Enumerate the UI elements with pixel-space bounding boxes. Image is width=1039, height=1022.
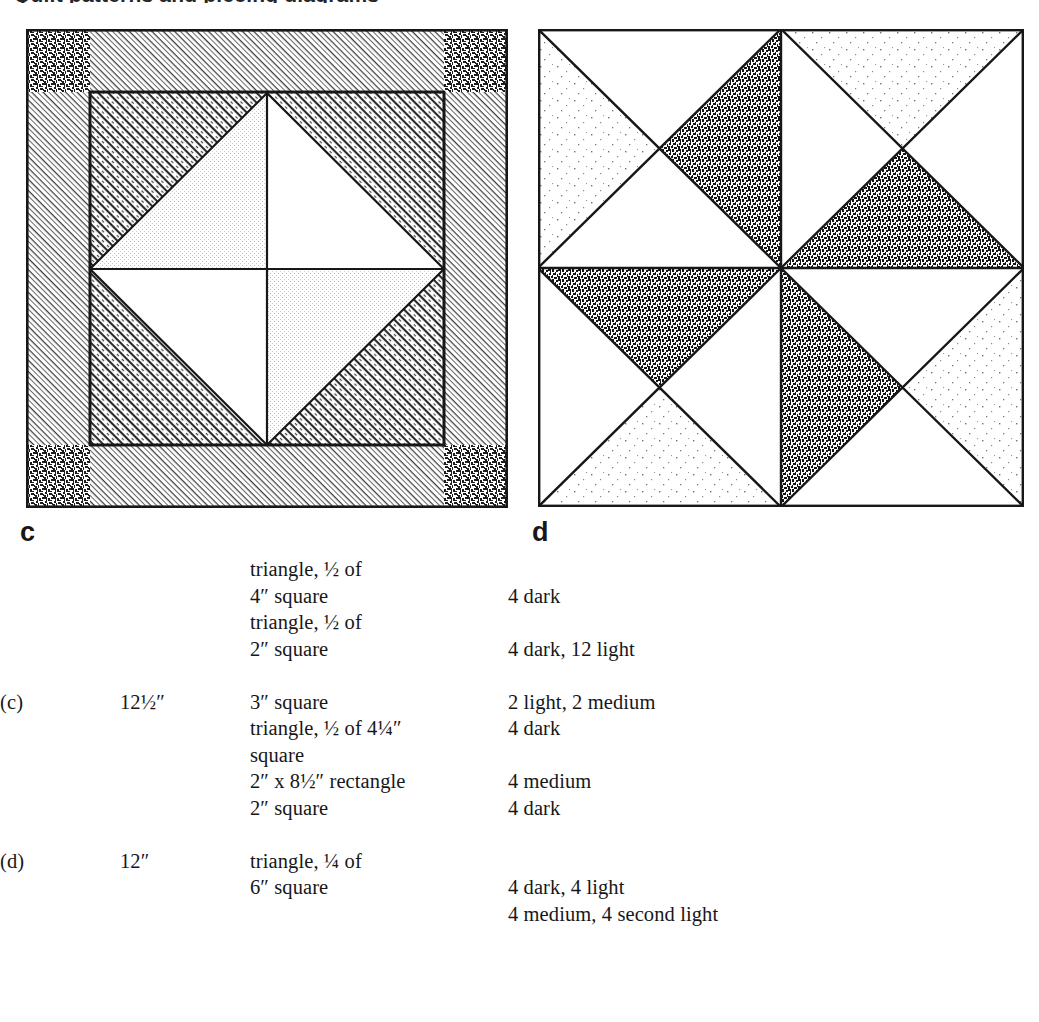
cell-finished-size [120,609,250,662]
cell-finished-size: 12″ [120,848,250,928]
cell-finished-size [120,556,250,609]
block-diagram-d [538,29,1024,507]
block-d-svg [538,29,1024,507]
cell-fabric-count: 4 dark, 12 light [508,609,1039,662]
cell-piece-description: 3″ square triangle, ½ of 4¼″ square 2″ x… [250,689,508,822]
table-row-spacer [0,663,1039,689]
cell-piece-description: triangle, ¼ of 6″ square [250,848,508,928]
table-row: triangle, ½ of 4″ square 4 dark [0,556,1039,609]
cell-block-ref [0,556,120,609]
cell-block-ref: (d) [0,848,120,928]
block-diagrams-region: c d [0,0,1039,520]
cell-fabric-count: 4 dark [508,556,1039,609]
cell-block-ref: (c) [0,689,120,822]
cutting-table: triangle, ½ of 4″ square 4 dark triangle… [0,556,1039,928]
block-diagram-c [26,29,508,508]
cell-fabric-count: 2 light, 2 medium 4 dark 4 medium 4 dark [508,689,1039,822]
cell-finished-size: 12½″ [120,689,250,822]
figure-letter-d: d [532,519,549,546]
figure-letter-c: c [20,519,35,546]
cell-block-ref [0,609,120,662]
cell-piece-description: triangle, ½ of 4″ square [250,556,508,609]
table-row: (d) 12″ triangle, ¼ of 6″ square 4 dark,… [0,848,1039,928]
cell-piece-description: triangle, ½ of 2″ square [250,609,508,662]
table-row: triangle, ½ of 2″ square 4 dark, 12 ligh… [0,609,1039,662]
table-row: (c) 12½″ 3″ square triangle, ½ of 4¼″ sq… [0,689,1039,822]
block-c-svg [26,29,508,508]
table-row-spacer [0,822,1039,848]
cell-fabric-count: 4 dark, 4 light 4 medium, 4 second light [508,848,1039,928]
block-d-outlines [538,29,1024,507]
